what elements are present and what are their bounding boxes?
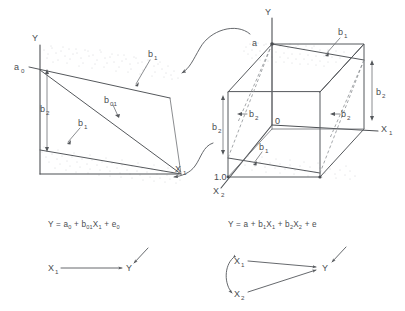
right-b2-left-outer-label-sub: 2 bbox=[218, 127, 222, 134]
right-b2-right-inner-arrow bbox=[330, 112, 335, 116]
right-b1-bottom-label: b bbox=[259, 142, 264, 152]
left-panel-group: Y X 1 a 0 b 1 b 1 b 01 b 2 bbox=[14, 33, 187, 183]
right-path-x2-to-y-arrow bbox=[248, 270, 316, 292]
right-path-x1-to-y-arrow bbox=[248, 261, 316, 267]
left-lower-slope-line bbox=[40, 150, 181, 174]
right-path-x2-sub: 2 bbox=[241, 294, 245, 301]
cube-hidden-bottom-edges bbox=[228, 129, 364, 177]
left-equation: Y = a0 + b01X1 + e0 bbox=[48, 220, 120, 230]
right-path-x1-label: X bbox=[234, 256, 240, 266]
regression-figure: Y X 1 a 0 b 1 b 1 b 01 b 2 bbox=[0, 0, 405, 311]
right-y-axis-label: Y bbox=[265, 7, 271, 17]
left-eq-text-4: + e bbox=[102, 220, 117, 229]
right-eq-t1: Y = a + b bbox=[228, 220, 263, 229]
right-x1-axis bbox=[272, 125, 378, 131]
right-b2-right-outer-label: b bbox=[376, 87, 381, 97]
equations-row: Y = a0 + b01X1 + e0 Y = a + b1X1 + b2X2 … bbox=[48, 220, 317, 230]
right-b2-left-outer-label: b bbox=[212, 122, 217, 132]
path-diagrams-row: X 1 Y X 1 X 2 Y bbox=[48, 247, 346, 301]
left-path-y-label: Y bbox=[126, 263, 132, 273]
connector-curves bbox=[174, 28, 250, 177]
right-b1-bottom-label-sub: 1 bbox=[265, 147, 269, 154]
right-x2-axis-label: X bbox=[213, 186, 219, 196]
left-b1-upper-label: b bbox=[148, 49, 153, 59]
right-path-diagram: X 1 X 2 Y bbox=[226, 247, 346, 301]
right-path-x2-label: X bbox=[234, 289, 240, 299]
left-path-residual-arrow bbox=[134, 248, 148, 263]
right-b2-right-outer-arrow-up bbox=[370, 60, 374, 65]
right-b2-left-inner-arrow bbox=[237, 112, 242, 116]
right-b2-right-inner-label: b bbox=[341, 109, 346, 119]
left-b2-label: b bbox=[40, 104, 45, 114]
left-b2-label-sub: 2 bbox=[46, 109, 50, 116]
left-wedge-right-edge bbox=[170, 98, 181, 174]
right-path-residual-arrow bbox=[332, 247, 346, 262]
right-b1-top-label-sub: 1 bbox=[344, 32, 348, 39]
plane-left-dashed-edge bbox=[228, 44, 272, 158]
left-intercept-label-sub: 0 bbox=[21, 67, 25, 74]
right-b2-left-inner-label-sub: 2 bbox=[255, 114, 259, 121]
left-eq-sub-e0: 0 bbox=[117, 224, 120, 230]
plane-top-slope-line bbox=[272, 44, 364, 60]
left-path-diagram: X 1 Y bbox=[48, 248, 148, 275]
cube-top-shading bbox=[244, 43, 345, 67]
left-x-axis-label: X bbox=[175, 164, 181, 174]
plane-inner-dashed-right bbox=[330, 60, 364, 138]
scatter-band-lower bbox=[42, 147, 181, 184]
left-path-x1-sub: 1 bbox=[55, 268, 59, 275]
left-eq-text: Y = a bbox=[48, 220, 68, 229]
cube-bottom-front-point bbox=[318, 175, 321, 178]
right-b2-left-inner-label: b bbox=[249, 109, 254, 119]
left-b01-leader-head bbox=[115, 114, 120, 118]
right-x2-axis-label-sub: 2 bbox=[221, 191, 225, 198]
left-intercept-label: a bbox=[14, 62, 19, 72]
cube-bottom-left-point bbox=[227, 176, 230, 179]
left-upper-slope-line bbox=[29, 67, 170, 98]
right-b2-right-outer-label-sub: 2 bbox=[382, 92, 386, 99]
plane-inner-dashed-left bbox=[238, 44, 272, 122]
right-x1-axis-label-sub: 1 bbox=[389, 129, 393, 136]
left-path-x1-label: X bbox=[48, 263, 54, 273]
right-b1-top-label: b bbox=[338, 27, 343, 37]
right-b1-top-leader bbox=[326, 38, 340, 54]
right-b2-right-inner-label-sub: 2 bbox=[347, 114, 351, 121]
left-b01-line bbox=[40, 70, 181, 174]
right-b2-left-outer-arrow-down bbox=[221, 150, 225, 155]
cube-intercept-point bbox=[270, 42, 274, 46]
left-eq-text-2: + b bbox=[72, 220, 87, 229]
left-y-axis-label: Y bbox=[32, 33, 38, 43]
right-equation: Y = a + b1X1 + b2X2 + e bbox=[228, 220, 317, 230]
left-b1-upper-leader bbox=[136, 60, 150, 84]
left-b01-label: b bbox=[104, 95, 109, 105]
svg-text:Y = a + b1X1 + b2X2 + e: Y = a + b1X1 + b2X2 + e bbox=[228, 220, 317, 230]
top-connector-arrow bbox=[182, 28, 250, 73]
right-b2-left-outer-arrow-up bbox=[221, 95, 225, 100]
cube-front-face bbox=[228, 92, 320, 177]
left-b1-lower-label-sub: 1 bbox=[84, 123, 88, 130]
right-intercept-label: a bbox=[252, 38, 257, 48]
right-panel-group: Y X 1 X 2 0 1.0 a b 1 b 1 b 2 b 2 b 2 b … bbox=[212, 7, 393, 198]
right-b1-bottom-leader bbox=[254, 152, 262, 163]
left-eq-sub-b01: 01 bbox=[86, 224, 93, 230]
right-path-correlation-arrow bbox=[226, 258, 233, 293]
plane-bottom-slope-line bbox=[228, 158, 320, 173]
left-b1-lower-leader bbox=[68, 128, 80, 142]
right-path-y-label: Y bbox=[322, 263, 328, 273]
right-x1-axis-label: X bbox=[381, 124, 387, 134]
cube-top-face bbox=[228, 44, 364, 92]
left-b1-lower-label: b bbox=[78, 118, 83, 128]
svg-text:Y = a0 + b01X1 + e0: Y = a0 + b01X1 + e0 bbox=[48, 220, 120, 230]
right-unit-label: 1.0 bbox=[214, 172, 227, 182]
left-b01-label-sub: 01 bbox=[110, 100, 117, 107]
right-path-x1-sub: 1 bbox=[241, 261, 245, 268]
right-b2-right-outer-arrow-down bbox=[370, 116, 374, 121]
left-b1-upper-label-sub: 1 bbox=[154, 54, 158, 61]
right-origin-label: 0 bbox=[275, 116, 280, 126]
figure-root: Y X 1 a 0 b 1 b 1 b 01 b 2 bbox=[0, 0, 405, 311]
